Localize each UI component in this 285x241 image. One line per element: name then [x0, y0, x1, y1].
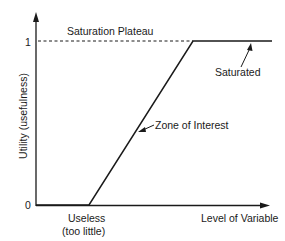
saturated-arrow-icon	[247, 43, 253, 51]
useless-label-line1: Useless	[68, 213, 105, 224]
x-axis-label: Level of Variable	[201, 213, 278, 224]
y-axis-arrow-icon	[33, 12, 39, 22]
x-axis-arrow-icon	[260, 203, 270, 209]
saturated-label: Saturated	[215, 67, 261, 78]
y-tick-1: 1	[25, 37, 31, 48]
utility-diagram: 1 0 Saturation Plateau Saturated Zone of…	[0, 0, 285, 241]
zone-of-interest-label: Zone of Interest	[155, 120, 229, 131]
y-tick-0: 0	[25, 200, 31, 211]
y-axis-label: Utility (usefulness)	[17, 61, 29, 171]
useless-label-line2: (too little)	[62, 226, 105, 237]
zone-arrow-icon	[138, 127, 146, 132]
saturated-arrow-shaft	[241, 48, 250, 67]
saturation-plateau-label: Saturation Plateau	[67, 26, 153, 37]
